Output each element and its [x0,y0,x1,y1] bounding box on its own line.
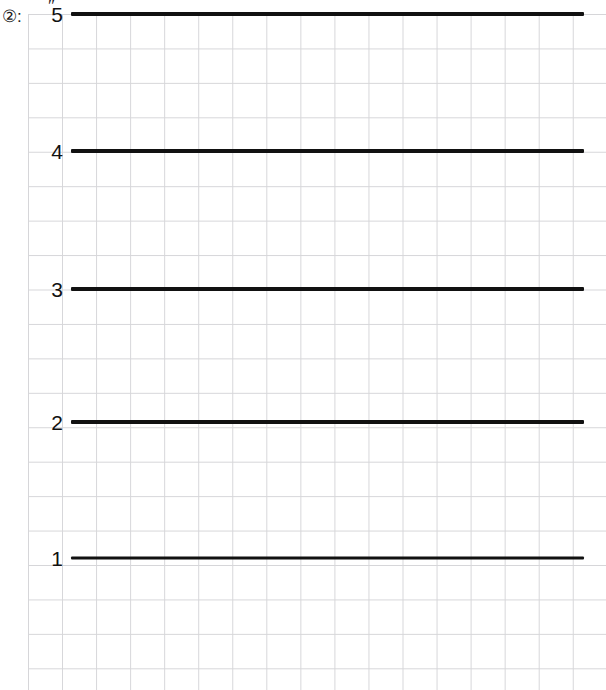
horizontal-bar-stroke [71,12,584,16]
graph-paper-grid [28,14,606,690]
y-axis-tick-label: 5 [39,4,63,25]
horizontal-bar-stroke [71,287,584,291]
y-axis-tick-label: 4 [39,141,63,162]
horizontal-bar-stroke [71,420,584,424]
worksheet-canvas: ″ ②: 54321 [0,0,606,690]
grid-left-edge [28,14,29,690]
y-axis-tick-label: 3 [39,279,63,300]
y-axis-tick-label: 1 [39,548,63,569]
horizontal-bar-stroke [71,149,584,153]
horizontal-bar-stroke [71,557,584,560]
item-number-label: ②: [2,8,22,25]
y-axis-tick-label: 2 [39,412,63,433]
